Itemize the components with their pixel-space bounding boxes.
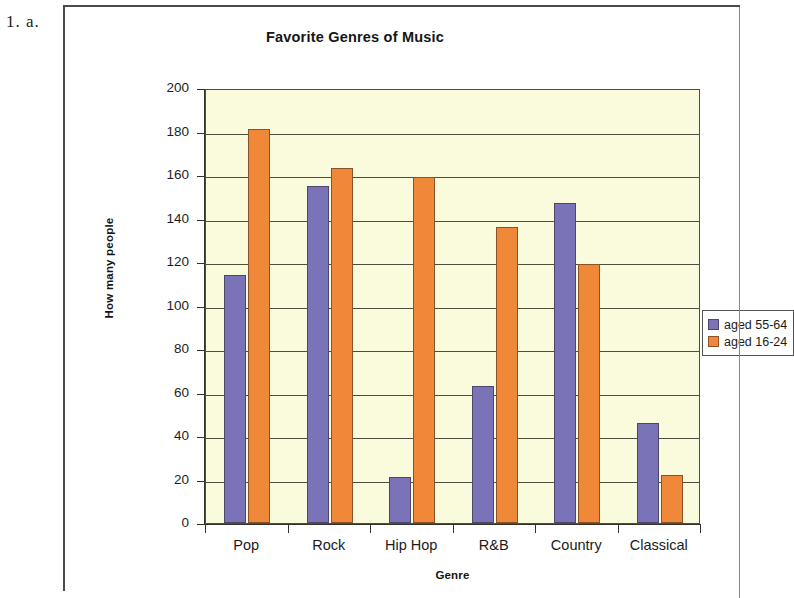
legend-item: aged 16-24 bbox=[708, 333, 787, 350]
y-axis-tick-label: 180 bbox=[143, 124, 189, 139]
x-axis-tick bbox=[453, 524, 454, 533]
gridline bbox=[206, 482, 699, 483]
x-axis-category-label: Classical bbox=[618, 537, 701, 553]
y-axis-tick-label: 140 bbox=[143, 211, 189, 226]
bar bbox=[413, 177, 435, 523]
gridline bbox=[206, 177, 699, 178]
page-right-rule bbox=[739, 7, 740, 598]
bar bbox=[578, 264, 600, 523]
legend-label: aged 55-64 bbox=[724, 318, 787, 332]
legend-item: aged 55-64 bbox=[708, 316, 787, 333]
y-axis-title: How many people bbox=[103, 188, 115, 348]
y-axis-tick-label: 160 bbox=[143, 167, 189, 182]
chart-legend: aged 55-64aged 16-24 bbox=[702, 310, 794, 356]
plot-area bbox=[205, 89, 700, 524]
legend-swatch-icon bbox=[708, 336, 719, 347]
y-axis-tick bbox=[197, 307, 205, 308]
y-axis-tick bbox=[197, 263, 205, 264]
y-axis-tick bbox=[197, 437, 205, 438]
gridline bbox=[206, 264, 699, 265]
x-axis-tick bbox=[205, 524, 206, 533]
bar bbox=[554, 203, 576, 523]
y-axis-tick-label: 60 bbox=[143, 385, 189, 400]
chart-figure: Favorite Genres of Music 020406080100120… bbox=[63, 5, 740, 591]
y-axis-tick-label: 20 bbox=[143, 472, 189, 487]
x-axis-tick bbox=[700, 524, 701, 533]
x-axis-tick bbox=[288, 524, 289, 533]
x-axis-category-label: Pop bbox=[205, 537, 288, 553]
bar bbox=[472, 386, 494, 523]
y-axis-tick-label: 40 bbox=[143, 428, 189, 443]
y-axis-tick-label: 0 bbox=[143, 515, 189, 530]
gridline bbox=[206, 221, 699, 222]
gridline bbox=[206, 395, 699, 396]
legend-swatch-icon bbox=[708, 319, 719, 330]
y-axis-tick bbox=[197, 394, 205, 395]
bar bbox=[307, 186, 329, 523]
x-axis-category-label: Hip Hop bbox=[370, 537, 453, 553]
x-axis-tick bbox=[370, 524, 371, 533]
x-axis-title: Genre bbox=[205, 569, 700, 581]
y-axis-tick bbox=[197, 176, 205, 177]
bar bbox=[496, 227, 518, 523]
question-number: 1. a. bbox=[6, 12, 40, 32]
x-axis-category-label: R&B bbox=[453, 537, 536, 553]
bar bbox=[248, 129, 270, 523]
y-axis-tick bbox=[197, 350, 205, 351]
y-axis-tick bbox=[197, 133, 205, 134]
gridline bbox=[206, 308, 699, 309]
chart-title: Favorite Genres of Music bbox=[65, 29, 645, 45]
y-axis-tick-label: 120 bbox=[143, 254, 189, 269]
y-axis-tick-label: 100 bbox=[143, 298, 189, 313]
y-axis-tick bbox=[197, 220, 205, 221]
legend-label: aged 16-24 bbox=[724, 335, 787, 349]
y-axis-tick-label: 200 bbox=[143, 80, 189, 95]
bar bbox=[661, 475, 683, 523]
gridline bbox=[206, 134, 699, 135]
bar bbox=[224, 275, 246, 523]
gridline bbox=[206, 438, 699, 439]
x-axis-category-label: Rock bbox=[288, 537, 371, 553]
bar bbox=[389, 477, 411, 523]
x-axis-tick bbox=[535, 524, 536, 533]
gridline bbox=[206, 351, 699, 352]
y-axis-tick bbox=[197, 89, 205, 90]
x-axis-category-label: Country bbox=[535, 537, 618, 553]
y-axis-tick bbox=[197, 481, 205, 482]
bar bbox=[637, 423, 659, 523]
x-axis-tick bbox=[618, 524, 619, 533]
bar bbox=[331, 168, 353, 523]
y-axis-tick-label: 80 bbox=[143, 341, 189, 356]
